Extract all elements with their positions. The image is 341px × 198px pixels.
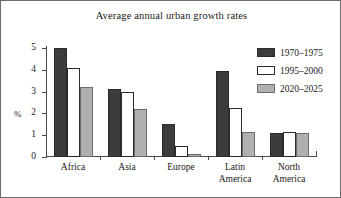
legend-swatch-icon (257, 48, 275, 57)
legend-swatch-icon (257, 66, 275, 75)
x-tick-label: Europe (154, 162, 208, 174)
bar (175, 146, 188, 157)
bar (54, 48, 67, 157)
bar (296, 133, 309, 157)
y-tick-label: 2 (12, 108, 36, 118)
x-group-tick (100, 156, 101, 160)
legend-label: 1995–2000 (280, 66, 323, 76)
bar (108, 89, 121, 157)
bar (80, 87, 93, 157)
x-group-tick (154, 156, 155, 160)
legend-swatch-icon (257, 84, 275, 93)
x-tick-label: Latin America (208, 162, 262, 185)
bar (134, 109, 147, 157)
x-axis-endcap (316, 151, 317, 157)
x-tick-label: North America (262, 162, 316, 185)
x-tick-label: Asia (100, 162, 154, 174)
legend-label: 2020–2025 (280, 84, 323, 94)
bar (162, 124, 175, 157)
y-tick-label: 1 (12, 130, 36, 140)
legend-label: 1970–1975 (280, 48, 323, 58)
bar (121, 92, 134, 157)
legend-item[interactable]: 2020–2025 (257, 81, 323, 96)
bar (283, 132, 296, 157)
bar (188, 154, 201, 157)
bar (229, 108, 242, 157)
x-group-tick (208, 156, 209, 160)
y-tick-label: 4 (12, 65, 36, 75)
bar (67, 68, 80, 157)
x-group-tick (262, 156, 263, 160)
x-tick-label: Africa (46, 162, 100, 174)
legend-item[interactable]: 1995–2000 (257, 63, 323, 78)
chart-figure: Average annual urban growth rates % 0123… (0, 0, 341, 198)
chart-title: Average annual urban growth rates (1, 10, 341, 21)
y-tick-label: 3 (12, 87, 36, 97)
y-tick-mark (42, 157, 46, 158)
legend-item[interactable]: 1970–1975 (257, 45, 323, 60)
y-tick-label: 5 (12, 43, 36, 53)
chart-legend: 1970–19751995–20002020–2025 (257, 45, 323, 99)
bar (242, 132, 255, 158)
bar (270, 133, 283, 157)
y-tick-label: 0 (12, 152, 36, 162)
bar (216, 71, 229, 157)
